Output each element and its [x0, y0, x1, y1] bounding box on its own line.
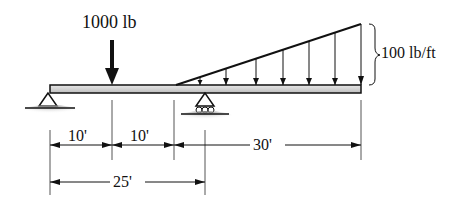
- beam-diagram: [0, 0, 473, 210]
- dimension-label-1: 10': [68, 127, 87, 145]
- pin-support: [20, 93, 80, 119]
- point-load-arrow: [105, 40, 119, 85]
- dimension-label-3: 30': [253, 136, 272, 154]
- dimension-label-2: 10': [130, 127, 149, 145]
- dimension-label-4: 25': [113, 173, 132, 191]
- beam: [50, 85, 361, 93]
- point-load-label: 1000 lb: [82, 12, 137, 33]
- roller-support: [175, 93, 235, 125]
- distributed-load-label: 100 lb/ft: [381, 44, 436, 62]
- distributed-load: [176, 24, 380, 85]
